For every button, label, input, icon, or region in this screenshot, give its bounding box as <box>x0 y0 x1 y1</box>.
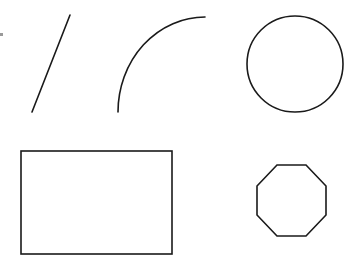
line-shape[interactable] <box>32 15 70 112</box>
rectangle-shape[interactable] <box>21 151 172 254</box>
octagon-shape[interactable] <box>257 165 326 236</box>
arc-shape[interactable] <box>118 17 205 112</box>
circle-shape[interactable] <box>247 16 343 112</box>
drawing-canvas <box>0 0 358 270</box>
